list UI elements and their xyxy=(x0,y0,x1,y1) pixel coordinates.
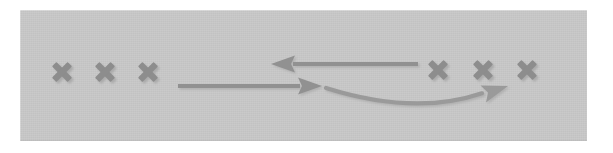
arrow-rightward-shaft xyxy=(178,84,300,88)
figure-canvas xyxy=(0,0,613,153)
arrow-leftward-shaft xyxy=(293,62,418,66)
